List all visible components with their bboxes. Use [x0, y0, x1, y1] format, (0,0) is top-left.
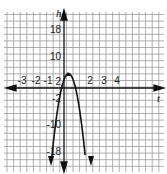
y-tick-label: 18 — [50, 24, 62, 35]
x-tick-label: 2 — [87, 75, 93, 86]
x-tick-label: -2 — [32, 75, 41, 86]
h-axis-label: h — [56, 7, 62, 19]
y-tick-label: -2 — [52, 93, 61, 104]
y-tick-label: -18 — [47, 146, 62, 157]
parabola-graph: h t -3-2-1234 18102-2-10-18 — [0, 0, 167, 174]
t-axis — [6, 85, 164, 91]
h-axis-up-arrow-icon — [61, 10, 67, 20]
y-tick-label: -10 — [47, 119, 62, 130]
t-axis-right-arrow-icon — [154, 85, 164, 91]
y-tick-label: 2 — [55, 76, 61, 87]
y-tick-label: 10 — [50, 51, 62, 62]
x-tick-label: -1 — [44, 75, 53, 86]
x-tick-label: -3 — [18, 75, 27, 86]
x-tick-label: 4 — [114, 75, 120, 86]
x-tick-label: 3 — [101, 75, 107, 86]
t-axis-left-arrow-icon — [6, 85, 16, 91]
